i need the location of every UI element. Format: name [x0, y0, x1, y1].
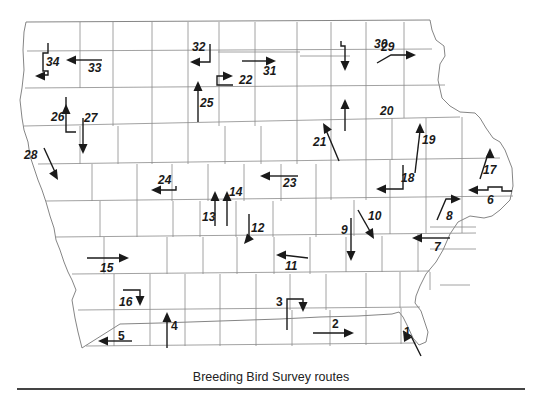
route-label: 1 [404, 325, 411, 339]
route-18: 18 [376, 165, 415, 194]
arrowhead-icon [98, 337, 108, 346]
route-label: 6 [487, 193, 494, 207]
route-label: 27 [83, 111, 99, 125]
route-line [44, 148, 55, 172]
arrowhead-icon [35, 72, 45, 81]
route-21: 21 [312, 121, 339, 161]
route-15: 15 [87, 254, 129, 276]
route-12: 12 [241, 214, 265, 247]
route-27: 27 [79, 111, 99, 154]
route-34: 34 [35, 43, 60, 81]
route-2: 2 [313, 317, 354, 338]
route-label: 10 [368, 209, 382, 223]
arrowhead-icon [376, 185, 386, 194]
arrowhead-icon [211, 191, 220, 201]
arrowhead-icon [299, 302, 308, 312]
route-label: 13 [202, 210, 216, 224]
route-label: 18 [401, 171, 415, 185]
caption-rule [17, 388, 525, 390]
map-caption: Breeding Bird Survey routes [0, 370, 542, 384]
route-17: 17 [480, 148, 498, 179]
arrowhead-icon [412, 234, 422, 243]
route-label: 31 [263, 64, 277, 78]
route-label: 28 [23, 148, 38, 162]
route-16: 16 [119, 290, 145, 309]
arrowhead-icon [136, 296, 145, 306]
route-label: 4 [171, 319, 178, 333]
route-label: 19 [422, 133, 436, 147]
arrowhead-icon [190, 58, 200, 67]
route-33: 33 [66, 56, 102, 76]
route-10: 10 [358, 209, 382, 241]
route-label: 9 [341, 223, 348, 237]
route-line [326, 130, 339, 161]
route-label: 20 [379, 104, 394, 118]
arrowhead-icon [486, 148, 495, 158]
iowa-county-map: 1234567891011121314151617181920212223242… [0, 0, 542, 404]
route-label: 8 [446, 209, 453, 223]
route-label: 26 [50, 110, 65, 124]
route-4: 4 [163, 312, 179, 348]
arrowhead-icon [223, 72, 233, 81]
arrowhead-icon [344, 329, 354, 338]
route-label: 16 [119, 295, 133, 309]
route-5: 5 [98, 329, 132, 346]
arrowhead-icon [347, 251, 356, 261]
route-label: 23 [282, 176, 297, 190]
arrowhead-icon [319, 121, 332, 134]
route-label: 22 [238, 73, 253, 87]
route-label: 32 [192, 40, 206, 54]
route-23: 23 [260, 172, 298, 191]
route-14: 14 [223, 185, 243, 226]
route-label: 11 [285, 259, 298, 273]
route-9: 9 [341, 218, 356, 261]
route-26: 26 [50, 97, 76, 132]
route-label: 25 [199, 96, 214, 110]
route-30: 30 [341, 37, 388, 71]
route-label: 24 [157, 173, 172, 187]
route-11: 11 [276, 251, 308, 274]
arrowhead-icon [451, 195, 461, 204]
arrowhead-icon [468, 186, 478, 195]
arrowhead-icon [406, 51, 416, 60]
route-line [341, 41, 345, 64]
route-label: 14 [229, 185, 243, 199]
arrowhead-icon [365, 228, 378, 241]
route-28: 28 [23, 148, 62, 182]
route-13: 13 [202, 191, 220, 226]
arrowhead-icon [341, 99, 350, 109]
route-line [283, 255, 308, 258]
route-8: 8 [437, 195, 461, 224]
arrowhead-icon [194, 81, 203, 91]
route-19: 19 [415, 123, 436, 173]
arrowhead-icon [260, 172, 270, 181]
route-line [475, 187, 512, 191]
arrowhead-icon [119, 254, 129, 263]
route-label: 12 [251, 221, 265, 235]
arrowhead-icon [341, 61, 350, 71]
route-line [415, 131, 420, 173]
route-label: 2 [332, 317, 339, 331]
route-label: 7 [434, 240, 442, 254]
route-1: 1 [399, 325, 421, 356]
route-label: 34 [46, 55, 60, 69]
arrowhead-icon [416, 123, 425, 133]
route-32: 32 [190, 40, 210, 67]
route-label: 33 [88, 61, 102, 75]
route-20: 20 [341, 99, 394, 131]
route-22: 22 [217, 72, 253, 88]
route-label: 15 [100, 261, 114, 275]
route-label: 5 [118, 329, 125, 343]
route-25: 25 [194, 81, 214, 122]
route-label: 17 [483, 163, 498, 177]
route-line [66, 97, 76, 132]
arrowhead-icon [66, 56, 76, 65]
route-label: 21 [312, 135, 327, 149]
route-label: 3 [276, 295, 283, 309]
arrowhead-icon [49, 169, 62, 182]
route-label: 30 [374, 37, 388, 51]
